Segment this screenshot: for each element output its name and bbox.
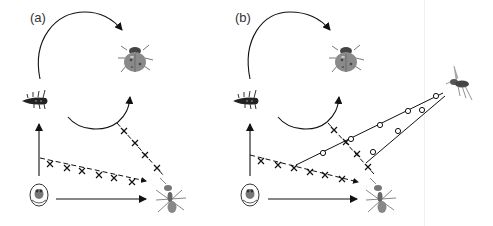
development-arrow <box>38 12 122 79</box>
ant-icon <box>156 178 186 213</box>
ladybird-adult-icon <box>118 45 153 72</box>
ladybird-larva-icon <box>22 90 48 109</box>
ladybird-larva-icon <box>233 90 259 109</box>
reproduction-arrow <box>278 97 339 129</box>
wasp-larva-link-modifier <box>296 93 443 165</box>
aphid-mummy-icon <box>30 184 48 206</box>
ant-icon <box>366 178 396 213</box>
panel-a <box>22 12 186 213</box>
aphid-mummy-icon <box>241 184 259 206</box>
ladybird-adult-icon <box>329 45 364 72</box>
panel-b <box>233 12 472 213</box>
parasitoid-wasp-icon <box>446 66 472 100</box>
larva-ant-dashed-link <box>250 155 358 182</box>
reproduction-arrow <box>68 97 130 129</box>
wasp-adult-link-modifier <box>366 96 445 163</box>
food-web-diagram <box>0 0 493 226</box>
development-arrow <box>248 12 330 79</box>
larva-ant-dashed-link <box>40 158 146 181</box>
